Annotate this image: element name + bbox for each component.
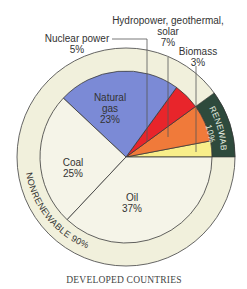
gas-label-2: gas bbox=[102, 103, 118, 114]
chart-caption: DEVELOPED COUNTRIES bbox=[66, 275, 181, 285]
hydro-label-2: solar bbox=[157, 26, 179, 37]
gas-pct: 23% bbox=[100, 114, 120, 125]
oil-label: Oil bbox=[126, 192, 138, 203]
coal-pct: 25% bbox=[63, 168, 83, 179]
coal-label: Coal bbox=[63, 157, 84, 168]
chart-stage: Nuclear power 5% Hydropower, geothermal,… bbox=[0, 0, 247, 289]
nuclear-pct: 5% bbox=[70, 44, 85, 55]
hydro-label: Hydropower, geothermal, bbox=[112, 15, 224, 26]
nuclear-label: Nuclear power bbox=[45, 33, 110, 44]
biomass-pct: 3% bbox=[191, 57, 206, 68]
pie-chart: Nuclear power 5% Hydropower, geothermal,… bbox=[0, 0, 247, 289]
hydro-pct: 7% bbox=[161, 37, 176, 48]
biomass-label: Biomass bbox=[179, 46, 217, 57]
gas-label: Natural bbox=[94, 92, 126, 103]
oil-pct: 37% bbox=[122, 203, 142, 214]
